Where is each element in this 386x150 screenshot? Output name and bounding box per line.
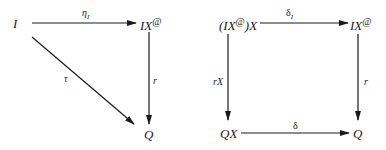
- label-delta: δ: [293, 121, 298, 131]
- label-r-right: r: [364, 77, 368, 87]
- node-top-left-prefix: (IX: [219, 18, 236, 33]
- node-bottom-right: Q: [353, 127, 362, 140]
- node-top-right-base: IX: [350, 18, 362, 33]
- arrow-tau: [32, 37, 134, 124]
- label-tau: τ: [64, 74, 68, 84]
- label-rX: rX: [213, 77, 223, 87]
- node-top-right: IX@: [350, 17, 372, 32]
- node-top-left-suffix: )X: [245, 18, 257, 33]
- node-top-left-sup: @: [236, 16, 245, 27]
- node-IX-at-sup: @: [152, 16, 161, 27]
- node-top-right-sup: @: [362, 16, 371, 27]
- label-delta-I-sub: I: [291, 13, 293, 21]
- arrows-layer: [0, 0, 386, 150]
- node-Q-left: Q: [144, 128, 153, 141]
- node-IX-at: IX@: [140, 17, 162, 32]
- node-I: I: [13, 17, 17, 30]
- node-bottom-left: QX: [220, 127, 237, 140]
- node-top-left: (IX@)X: [219, 17, 257, 32]
- label-eta: ηI: [82, 8, 89, 21]
- node-IX-at-base: IX: [140, 18, 152, 33]
- label-eta-sub: I: [87, 13, 89, 21]
- label-r-left: r: [153, 76, 157, 86]
- label-delta-I: δI: [286, 8, 293, 21]
- commutative-diagrams: I IX@ Q ηI τ r (IX@)X IX@ QX Q δI rX r δ: [0, 0, 386, 150]
